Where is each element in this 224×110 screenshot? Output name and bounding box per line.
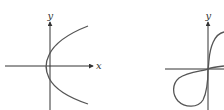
left-y-label: y [47, 10, 54, 21]
left-parabola-curve [46, 26, 88, 104]
left-figure: y x [5, 10, 102, 110]
diagram-canvas: y x y [0, 0, 224, 110]
right-y-label: y [205, 10, 212, 21]
left-x-label: x [96, 60, 102, 71]
right-figure: y [165, 10, 224, 110]
